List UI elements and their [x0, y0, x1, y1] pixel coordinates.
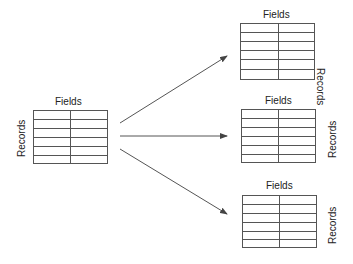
arrow-to-target-3 — [120, 149, 227, 214]
arrows-layer — [0, 0, 353, 264]
diagram-canvas: Fields Records Fields Records Fields Rec… — [0, 0, 353, 264]
arrow-to-target-1 — [120, 56, 227, 123]
